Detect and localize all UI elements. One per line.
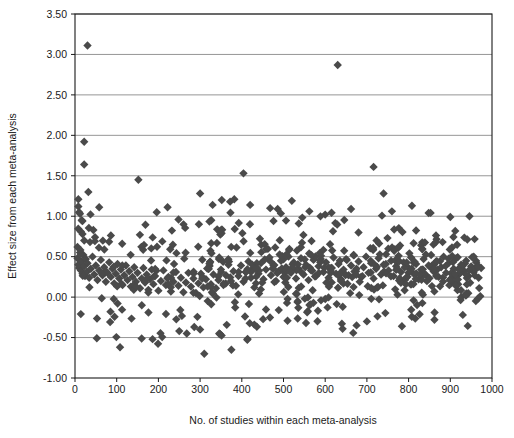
x-tick-label: 400 xyxy=(233,383,251,395)
y-tick-label: 0.50 xyxy=(47,250,68,262)
y-tick-label: 0.00 xyxy=(47,291,68,303)
x-tick-label: 0 xyxy=(72,383,78,395)
y-tick-label: -1.00 xyxy=(43,372,67,384)
x-tick-label: 500 xyxy=(275,383,293,395)
x-tick-label: 700 xyxy=(358,383,376,395)
chart-canvas: 01002003004005006007008009001000 -1.00-0… xyxy=(0,0,514,438)
x-tick-label: 300 xyxy=(191,383,209,395)
y-tick-label: 1.00 xyxy=(47,210,68,222)
scatter-plot-figure: 01002003004005006007008009001000 -1.00-0… xyxy=(0,0,514,438)
x-tick-label: 100 xyxy=(108,383,126,395)
y-tick-label: 2.50 xyxy=(47,89,68,101)
y-tick-label: 3.00 xyxy=(47,48,68,60)
y-tick-label: 1.50 xyxy=(47,170,68,182)
x-tick-label: 200 xyxy=(150,383,168,395)
x-axis-title: No. of studies within each meta-analysis xyxy=(189,414,376,426)
x-tick-label: 900 xyxy=(442,383,460,395)
x-tick-label: 1000 xyxy=(480,383,504,395)
x-tick-label: 800 xyxy=(400,383,418,395)
x-tick-label: 600 xyxy=(316,383,334,395)
plot-background xyxy=(0,0,514,438)
y-axis-title: Effect size from each meta-analysis xyxy=(6,113,18,279)
y-tick-label: 3.50 xyxy=(47,8,68,20)
y-tick-label: -0.50 xyxy=(43,331,67,343)
y-tick-label: 2.00 xyxy=(47,129,68,141)
